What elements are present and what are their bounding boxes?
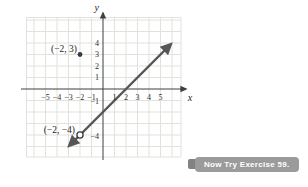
y-tick: −1: [90, 97, 99, 106]
x-tick: −4: [53, 93, 62, 102]
x-tick: −3: [64, 93, 73, 102]
x-tick: −2: [76, 93, 85, 102]
y-tick: 2: [95, 62, 99, 71]
closed-point: [78, 52, 83, 57]
graphed-line: [70, 45, 170, 145]
point-label-bottom: (−2, −4): [44, 125, 75, 136]
open-circle-point: [77, 132, 83, 138]
grid-lines: [27, 18, 182, 158]
y-tick: 3: [95, 50, 99, 59]
y-axis-label: y: [94, 2, 100, 13]
x-tick: 2: [124, 93, 128, 102]
point-label-top: (−2, 3): [51, 44, 77, 55]
y-tick: 4: [95, 39, 99, 48]
x-tick: 5: [159, 93, 163, 102]
x-tick: 4: [147, 93, 151, 102]
textbook-figure: −5 −4 −3 −2 −1 1 2 3 4 5 4 3 2 1 −1 −4 y…: [0, 0, 308, 187]
y-tick: −4: [90, 132, 99, 141]
now-try-label: Now Try Exercise 59.: [195, 157, 299, 172]
x-tick: −5: [41, 93, 50, 102]
x-tick: 1: [113, 93, 117, 102]
x-axis-label: x: [187, 92, 193, 103]
coordinate-plane: −5 −4 −3 −2 −1 1 2 3 4 5 4 3 2 1 −1 −4 y…: [0, 0, 204, 172]
x-tick: 3: [136, 93, 140, 102]
y-tick: 1: [95, 73, 99, 82]
